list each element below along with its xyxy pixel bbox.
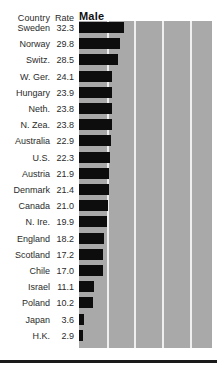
row-label-country: Japan [0, 315, 50, 325]
bar [79, 184, 109, 195]
row-label-country: Hungary [0, 88, 50, 98]
row-label-country: England [0, 234, 50, 244]
plot-area [79, 21, 212, 348]
bar [79, 216, 107, 227]
bar [79, 233, 104, 244]
bar-chart: Country Rate Male Sweden32.3Norway29.8Sw… [0, 0, 217, 368]
bar [79, 22, 124, 33]
row-label-country: Sweden [0, 23, 50, 33]
bar [79, 281, 94, 292]
row-label-rate: 18.2 [52, 234, 74, 244]
bar [79, 119, 112, 130]
bar [79, 71, 112, 82]
row-label-rate: 23.9 [52, 88, 74, 98]
bar [79, 168, 109, 179]
row-label-country: Scotland [0, 250, 50, 260]
row-label-country: Denmark [0, 185, 50, 195]
row-label-country: Norway [0, 39, 50, 49]
row-label-country: H.K. [0, 331, 50, 341]
row-label-rate: 28.5 [52, 55, 74, 65]
bar [79, 330, 83, 341]
row-label-country: Australia [0, 136, 50, 146]
row-label-country: N. Ire. [0, 217, 50, 227]
row-label-rate: 24.1 [52, 72, 74, 82]
bar [79, 54, 118, 65]
row-label-rate: 29.8 [52, 39, 74, 49]
bottom-rule [0, 360, 217, 363]
row-label-rate: 22.9 [52, 136, 74, 146]
row-label-rate: 23.8 [52, 120, 74, 130]
row-label-rate: 17.2 [52, 250, 74, 260]
row-label-country: Canada [0, 201, 50, 211]
row-label-rate: 17.0 [52, 266, 74, 276]
column-header-rate: Rate [52, 13, 74, 23]
bar [79, 200, 108, 211]
row-label-country: Neth. [0, 104, 50, 114]
row-label-rate: 32.3 [52, 23, 74, 33]
row-label-rate: 23.8 [52, 104, 74, 114]
bar [79, 87, 112, 98]
row-label-country: Switz. [0, 55, 50, 65]
row-label-rate: 19.9 [52, 217, 74, 227]
row-label-rate: 22.3 [52, 153, 74, 163]
bar [79, 314, 84, 325]
row-label-rate: 21.0 [52, 201, 74, 211]
bar [79, 152, 110, 163]
bar [79, 135, 111, 146]
row-label-rate: 2.9 [52, 331, 74, 341]
bar [79, 265, 103, 276]
row-label-country: Austria [0, 169, 50, 179]
row-label-country: W. Ger. [0, 72, 50, 82]
row-label-rate: 3.6 [52, 315, 74, 325]
bars-layer [79, 21, 212, 348]
row-label-rate: 11.1 [52, 282, 74, 292]
row-label-rate: 21.4 [52, 185, 74, 195]
bar [79, 38, 120, 49]
row-label-country: N. Zea. [0, 120, 50, 130]
row-label-rate: 21.9 [52, 169, 74, 179]
row-label-country: U.S. [0, 153, 50, 163]
row-label-country: Chile [0, 266, 50, 276]
column-header-country: Country [0, 13, 50, 23]
row-label-country: Israel [0, 282, 50, 292]
row-label-rate: 10.2 [52, 298, 74, 308]
bar [79, 249, 103, 260]
bar [79, 103, 112, 114]
bar [79, 297, 93, 308]
row-label-country: Poland [0, 298, 50, 308]
